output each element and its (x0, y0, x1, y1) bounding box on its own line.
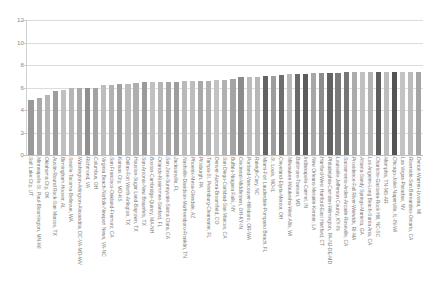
x-label-slot: Baltimore-Towson, MD (293, 157, 301, 294)
bar[interactable] (28, 100, 33, 155)
bar[interactable] (222, 80, 227, 155)
bar-slot (124, 20, 132, 155)
x-axis-label: Austin-Round Rock-San Marcos, TX (52, 157, 57, 236)
bar-slot (59, 20, 67, 155)
bar[interactable] (206, 81, 211, 155)
bar[interactable] (69, 88, 74, 155)
x-axis-label: Las Vegas-Paradise, NV (399, 157, 404, 210)
x-axis-label: Denver-Aurora-Broomfield, CO (213, 157, 218, 224)
bar[interactable] (344, 72, 349, 155)
bar[interactable] (319, 73, 324, 155)
x-axis-label: New Orleans-Metairie-Kenner, LA (310, 157, 315, 230)
bar[interactable] (263, 76, 268, 155)
bar[interactable] (77, 88, 82, 155)
x-axis-label: Chicago-Joliet-Naperville, IL-IN-WI (391, 157, 396, 232)
bar[interactable] (376, 72, 381, 155)
bar[interactable] (303, 74, 308, 155)
y-tick-label: 2 (4, 129, 24, 135)
bar[interactable] (255, 77, 260, 155)
bar[interactable] (360, 72, 365, 155)
x-label-slot: Denver-Aurora-Broomfield, CO (212, 157, 220, 294)
bar[interactable] (295, 74, 300, 155)
y-tick-label: 8 (4, 62, 24, 68)
bar-slot (148, 20, 156, 155)
bar[interactable] (125, 84, 130, 155)
x-axis-label: Raleigh-Cary, NC (254, 157, 259, 195)
bar[interactable] (400, 72, 405, 155)
bar[interactable] (93, 88, 98, 156)
y-axis-tick-labels: 024681012 (4, 14, 24, 156)
x-label-slot: Sacramento-Arden-Arcade-Roseville, CA (341, 157, 349, 294)
bar[interactable] (238, 77, 243, 155)
bar[interactable] (117, 84, 122, 155)
bar[interactable] (133, 83, 138, 155)
bar[interactable] (214, 80, 219, 155)
plot-wrapper: 024681012 Salt Lake City, UTMinneapolis-… (0, 0, 435, 294)
bar[interactable] (198, 81, 203, 155)
y-tick-label: 0 (4, 152, 24, 158)
bar-slot (132, 20, 140, 155)
bar[interactable] (37, 98, 42, 155)
bar[interactable] (190, 81, 195, 155)
bar-slot (180, 20, 188, 155)
bar[interactable] (408, 72, 413, 155)
bar[interactable] (150, 82, 155, 155)
bar[interactable] (230, 79, 235, 155)
bar[interactable] (142, 82, 147, 155)
bar[interactable] (279, 75, 284, 155)
bar[interactable] (174, 82, 179, 155)
bar-slot (84, 20, 92, 155)
x-label-slot: Kansas City, MO-KS (115, 157, 123, 294)
x-label-slot: Washington-Arlington-Alexandria, DC-VA-M… (74, 157, 82, 294)
bar[interactable] (271, 76, 276, 155)
bar[interactable] (384, 72, 389, 155)
bar-slot (294, 20, 302, 155)
x-label-slot: Salt Lake City, UT (26, 157, 34, 294)
x-axis-label: Buffalo-Niagara Falls, NY (229, 157, 234, 212)
x-axis-label: Louisville-Jefferson County, KY-IN (334, 157, 339, 231)
bar-slot (197, 20, 205, 155)
bar-slot (172, 20, 180, 155)
x-axis-label: Indianapolis-Carmel, IN (302, 157, 307, 208)
x-axis-category-labels: Salt Lake City, UTMinneapolis-St. Paul-B… (26, 157, 422, 294)
bar[interactable] (61, 90, 66, 155)
bar[interactable] (101, 85, 106, 155)
x-axis-label: Milwaukee-Waukesha-West Allis, WI (286, 157, 291, 236)
x-axis-label: Nashville-Davidson-Murfreesboro-Franklin… (181, 157, 186, 258)
x-label-slot: Cincinnati-Middletown, OH-KY-IN (236, 157, 244, 294)
x-label-slot: Raleigh-Cary, NC (252, 157, 260, 294)
x-axis-label: Kansas City, MO-KS (116, 157, 121, 202)
bar[interactable] (392, 72, 397, 155)
bar[interactable] (45, 95, 50, 155)
y-tick-label: 12 (4, 17, 24, 23)
bar[interactable] (287, 74, 292, 155)
x-axis-label: Virginia Beach-Norfolk-Newport News, VA-… (100, 157, 105, 257)
bar[interactable] (166, 82, 171, 155)
x-label-slot: Providence-Fall River-Warwick, RI-MA (349, 157, 357, 294)
x-axis-label: Philadelphia-Camden-Wilmington, PA-NJ-DE… (326, 157, 331, 264)
bar-slot (261, 20, 269, 155)
bar[interactable] (368, 72, 373, 155)
x-label-slot: Jacksonville, FL (171, 157, 179, 294)
bar-slot (286, 20, 294, 155)
bar[interactable] (158, 82, 163, 155)
bar[interactable] (85, 88, 90, 155)
bar-slot (27, 20, 35, 155)
bar[interactable] (109, 85, 114, 155)
bar[interactable] (335, 73, 340, 155)
x-axis-label: San Diego-Carlsbad-San Marcos, CA (221, 157, 226, 238)
bar-slot (164, 20, 172, 155)
bar[interactable] (352, 72, 357, 155)
x-label-slot: Buffalo-Niagara Falls, NY (228, 157, 236, 294)
x-axis-label: Riverside-San Bernardino-Ontario, CA (407, 157, 412, 240)
bar[interactable] (182, 81, 187, 155)
bar[interactable] (247, 77, 252, 155)
x-label-slot: San Jose-Sunnyvale-Santa Clara, CA (163, 157, 171, 294)
x-label-slot: Memphis, TN-MS-AR (381, 157, 389, 294)
bar[interactable] (416, 72, 421, 155)
bar[interactable] (53, 91, 58, 155)
x-axis-label: Minneapolis-St. Paul-Bloomington, MN-WI (36, 157, 41, 249)
x-axis-label: Hartford-West Hartford-East Hartford, CT (318, 157, 323, 246)
bar[interactable] (327, 73, 332, 155)
bar[interactable] (311, 73, 316, 155)
